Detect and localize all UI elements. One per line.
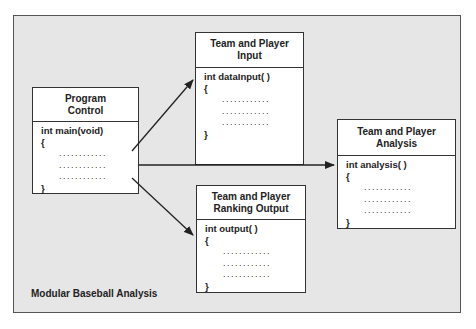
diagram-caption: Modular Baseball Analysis [31, 288, 157, 299]
arrow-to-input [132, 80, 193, 151]
connector-arrows [0, 0, 476, 329]
arrow-to-ranking [132, 178, 193, 235]
